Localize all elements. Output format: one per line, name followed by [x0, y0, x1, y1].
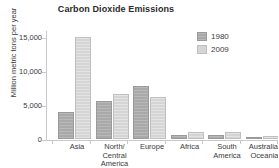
bar-2009	[263, 136, 279, 139]
y-axis-tick-label: 0	[2, 135, 42, 144]
chart-title: Carbon Dioxide Emissions	[46, 4, 186, 14]
y-axis-tick	[42, 72, 47, 73]
y-axis-tick	[42, 38, 47, 39]
bar-1980	[208, 135, 224, 139]
bar-2009	[225, 132, 241, 139]
bar-1980	[96, 101, 112, 139]
y-axis-tick-label: 15,000	[2, 33, 42, 42]
bar-1980	[246, 137, 262, 139]
y-axis-tick	[42, 106, 47, 107]
bar-2009	[188, 132, 204, 139]
y-axis-line	[46, 31, 47, 141]
bar-group	[58, 30, 96, 139]
legend-swatch-1980	[197, 32, 207, 41]
bar-group	[133, 30, 171, 139]
bar-1980	[133, 86, 149, 139]
chart-legend: 19802009	[197, 31, 267, 57]
y-axis-tick-labels: 05,00010,00015,000	[0, 31, 42, 141]
y-axis-tick	[42, 140, 47, 141]
x-axis-tick-label: Australia/Oceania	[238, 143, 279, 160]
legend-item-2009: 2009	[197, 44, 267, 55]
bar-2009	[113, 94, 129, 139]
bar-2009	[75, 37, 91, 139]
bar-1980	[58, 112, 74, 139]
legend-swatch-2009	[197, 45, 207, 54]
legend-label-2009: 2009	[211, 45, 229, 54]
bar-group	[96, 30, 134, 139]
bar-2009	[150, 97, 166, 139]
x-axis-tick-label-line: America	[88, 160, 142, 168]
co2-emissions-bar-chart: Carbon Dioxide Emissions Million metric …	[0, 0, 278, 168]
x-axis-tick-label-line: Oceania	[238, 152, 279, 161]
bar-1980	[171, 135, 187, 139]
y-axis-tick-label: 10,000	[2, 67, 42, 76]
legend-item-1980: 1980	[197, 31, 267, 42]
legend-label-1980: 1980	[211, 32, 229, 41]
x-axis-line	[46, 140, 278, 141]
y-axis-tick-label: 5,000	[2, 101, 42, 110]
